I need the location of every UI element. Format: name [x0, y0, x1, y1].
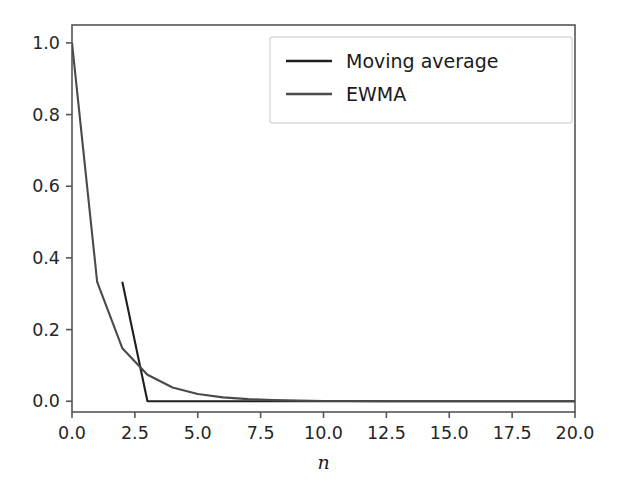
y-tick-label: 1.0 — [32, 33, 60, 53]
x-tick-label: 10.0 — [304, 423, 343, 443]
x-axis-title: n — [317, 451, 329, 473]
x-tick-label: 5.0 — [184, 423, 212, 443]
series-line-moving-average — [122, 282, 575, 401]
x-tick-label: 12.5 — [367, 423, 406, 443]
x-tick-label: 7.5 — [247, 423, 275, 443]
x-tick-label: 2.5 — [121, 423, 149, 443]
matplotlib-figure: 0.02.55.07.510.012.515.017.520.00.00.20.… — [0, 0, 619, 481]
y-tick-label: 0.6 — [32, 176, 60, 196]
x-tick-label: 20.0 — [556, 423, 595, 443]
figure-root: 0.02.55.07.510.012.515.017.520.00.00.20.… — [0, 0, 619, 481]
legend-label-ewma: EWMA — [346, 83, 406, 105]
y-tick-label: 0.8 — [32, 105, 60, 125]
y-tick-label: 0.0 — [32, 391, 60, 411]
y-tick-label: 0.2 — [32, 320, 60, 340]
y-tick-label: 0.4 — [32, 248, 60, 268]
x-tick-label: 15.0 — [430, 423, 469, 443]
legend-label-moving-average: Moving average — [346, 50, 498, 72]
x-tick-label: 0.0 — [58, 423, 86, 443]
line-chart-canvas: 0.02.55.07.510.012.515.017.520.00.00.20.… — [0, 0, 619, 481]
x-tick-label: 17.5 — [493, 423, 532, 443]
